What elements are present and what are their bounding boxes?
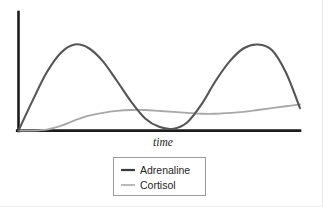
legend-label-adrenaline: Adrenaline	[140, 164, 190, 176]
chart-page: time Adrenaline Cortisol	[0, 0, 323, 207]
x-axis-label: time	[153, 136, 173, 148]
legend-label-cortisol: Cortisol	[140, 179, 176, 191]
line-chart: time Adrenaline Cortisol	[0, 0, 323, 207]
legend: Adrenaline Cortisol	[114, 158, 206, 196]
series-line-adrenaline	[19, 44, 301, 130]
